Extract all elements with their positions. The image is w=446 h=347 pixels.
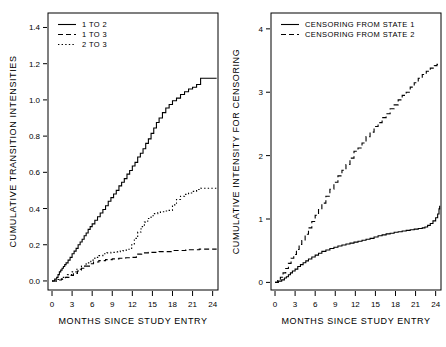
y-tick-label: 0.4 [29, 205, 41, 214]
x-tick-label: 21 [188, 300, 197, 309]
x-tick-label: 21 [411, 300, 420, 309]
series-line [52, 78, 217, 281]
x-tick-label: 3 [293, 300, 298, 309]
y-tick-label: 0.8 [29, 132, 41, 141]
chart-svg-right: 0369121518212401234MONTHS SINCE STUDY EN… [223, 0, 446, 347]
series-line [275, 64, 439, 283]
series-line [52, 188, 217, 281]
y-tick-label: 0.6 [29, 168, 41, 177]
x-tick-label: 18 [391, 300, 400, 309]
y-tick-label: 3 [259, 88, 264, 97]
x-tick-label: 6 [313, 300, 318, 309]
x-tick-label: 12 [351, 300, 360, 309]
chart-panel-right: 0369121518212401234MONTHS SINCE STUDY EN… [223, 0, 446, 347]
x-tick-label: 15 [371, 300, 380, 309]
legend-label: CENSORING FROM STATE 1 [305, 20, 415, 29]
x-axis-title: MONTHS SINCE STUDY ENTRY [281, 316, 430, 326]
legend-label: 2 TO 3 [82, 40, 107, 49]
figure-container: 036912151821240.00.20.40.60.81.01.21.4MO… [0, 0, 446, 347]
legend-label: 1 TO 3 [82, 30, 107, 39]
x-tick-label: 15 [148, 300, 157, 309]
series-line [52, 249, 217, 281]
x-tick-label: 24 [431, 300, 440, 309]
x-tick-label: 18 [168, 300, 177, 309]
y-tick-label: 1 [259, 215, 264, 224]
legend-label: 1 TO 2 [82, 20, 107, 29]
legend-label: CENSORING FROM STATE 2 [305, 30, 415, 39]
y-axis-title: CUMULATIVE INTENSITY FOR CENSORING [231, 49, 241, 255]
y-tick-label: 2 [259, 152, 264, 161]
y-tick-label: 0.0 [29, 277, 41, 286]
y-tick-label: 0 [259, 278, 264, 287]
y-tick-label: 0.2 [29, 241, 41, 250]
x-tick-label: 9 [110, 300, 115, 309]
plot-left: 036912151821240.00.20.40.60.81.01.21.4MO… [8, 13, 218, 326]
x-tick-label: 0 [50, 300, 55, 309]
x-tick-label: 3 [70, 300, 75, 309]
plot-right: 0369121518212401234MONTHS SINCE STUDY EN… [231, 13, 441, 326]
x-axis-title: MONTHS SINCE STUDY ENTRY [58, 316, 207, 326]
chart-panel-left: 036912151821240.00.20.40.60.81.01.21.4MO… [0, 0, 223, 347]
x-tick-label: 24 [208, 300, 217, 309]
y-tick-label: 1.2 [29, 60, 41, 69]
x-tick-label: 6 [90, 300, 95, 309]
y-tick-label: 1.0 [29, 96, 41, 105]
series-line [275, 206, 440, 283]
y-tick-label: 4 [259, 25, 264, 34]
plot-frame [48, 13, 218, 290]
y-axis-title: CUMULATIVE TRANSITION INTENSITIES [8, 56, 18, 248]
x-tick-label: 12 [128, 300, 137, 309]
y-tick-label: 1.4 [29, 23, 41, 32]
x-tick-label: 9 [333, 300, 338, 309]
chart-svg-left: 036912151821240.00.20.40.60.81.01.21.4MO… [0, 0, 223, 347]
x-tick-label: 0 [273, 300, 278, 309]
